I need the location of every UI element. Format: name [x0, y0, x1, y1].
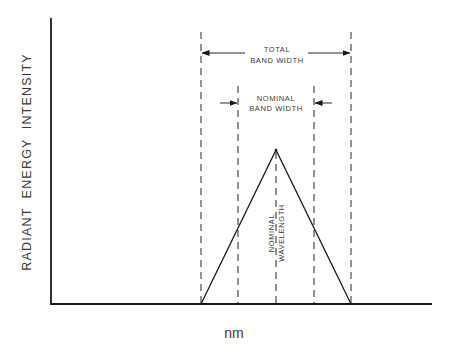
- nominal-wavelength-label: NOMINAL WAVELENGTH: [267, 204, 286, 262]
- y-axis-label: RADIANT ENERGY INTENSITY: [20, 53, 34, 271]
- nominal-wavelength-label-line1: NOMINAL: [267, 214, 276, 252]
- total-band-width-label-line2: BAND WIDTH: [250, 56, 304, 65]
- nominal-band-width-label-line2: BAND WIDTH: [249, 104, 303, 113]
- nominal-wavelength-label-line2: WAVELENGTH: [277, 204, 286, 262]
- x-axis-label: nm: [224, 325, 243, 341]
- peak-point: [275, 149, 278, 152]
- y-axis-label-group: RADIANT ENERGY INTENSITY: [20, 53, 34, 271]
- total-band-width-label-line1: TOTAL: [264, 45, 290, 54]
- diagram-svg: TOTAL BAND WIDTH NOMINAL BAND WIDTH NOMI…: [0, 0, 449, 357]
- bandwidth-diagram: TOTAL BAND WIDTH NOMINAL BAND WIDTH NOMI…: [0, 0, 449, 357]
- nominal-band-width-label-line1: NOMINAL: [257, 94, 295, 103]
